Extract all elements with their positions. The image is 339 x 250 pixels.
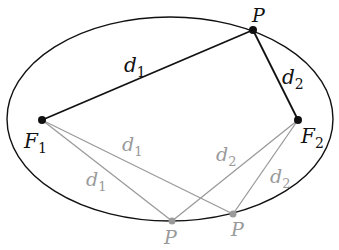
label-d1-lower-outer-sub: 1 xyxy=(134,144,142,159)
label-d2-top-main: d xyxy=(282,65,295,89)
label-d2-lower-inner: d2 xyxy=(216,143,236,169)
label-d2-lower-outer: d2 xyxy=(270,165,290,191)
label-d2-lower-outer-main: d xyxy=(270,165,282,187)
segment-d2-to-lower-p-right xyxy=(233,120,298,214)
label-d2-top-sub: 2 xyxy=(295,76,304,92)
focus1-point xyxy=(38,116,46,124)
label-d1-top-sub: 1 xyxy=(137,64,146,80)
ellipse-diagram: P d1 d2 F1 F2 d1 d1 d2 d2 P P xyxy=(0,0,339,250)
label-d1-top-main: d xyxy=(124,53,137,77)
segment-d1-top xyxy=(42,30,253,120)
label-d2-lower-inner-main: d xyxy=(216,143,228,165)
label-d1-lower-outer: d1 xyxy=(122,133,142,159)
label-d1-lower-inner-sub: 1 xyxy=(98,179,106,194)
label-point-top: P xyxy=(251,4,266,26)
label-focus1: F1 xyxy=(23,129,47,156)
label-focus1-main: F xyxy=(23,129,39,153)
label-focus1-sub: 1 xyxy=(38,140,47,156)
label-point-bottom-left: P xyxy=(163,226,178,248)
label-focus2: F2 xyxy=(300,124,324,151)
label-d1-lower-outer-main: d xyxy=(122,133,134,155)
point-bottom-right xyxy=(230,211,237,218)
label-d1-top: d1 xyxy=(124,53,146,80)
point-top xyxy=(249,26,257,34)
label-d2-top: d2 xyxy=(282,65,304,92)
segment-d1-to-lower-p-left xyxy=(42,120,172,221)
label-focus2-sub: 2 xyxy=(315,135,324,151)
label-d2-lower-inner-sub: 2 xyxy=(228,154,236,169)
label-d1-lower-inner-main: d xyxy=(86,168,98,190)
label-focus2-main: F xyxy=(300,124,316,148)
label-point-bottom-right: P xyxy=(230,218,245,240)
point-bottom-left xyxy=(169,218,176,225)
focus2-point xyxy=(294,116,302,124)
label-d1-lower-inner: d1 xyxy=(86,168,106,194)
label-d2-lower-outer-sub: 2 xyxy=(282,176,290,191)
